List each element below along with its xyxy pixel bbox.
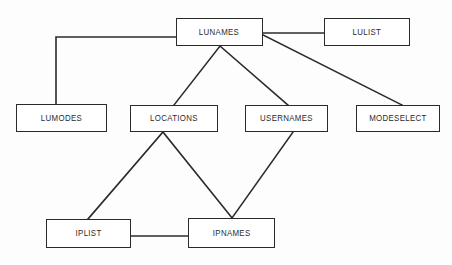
diagram-canvas: LUNAMES LULIST LUMODES LOCATIONS USERNAM… (0, 0, 452, 265)
node-lulist[interactable]: LULIST (324, 18, 410, 46)
node-iplist[interactable]: IPLIST (46, 219, 131, 248)
node-modeselect[interactable]: MODESELECT (356, 105, 440, 132)
edge-locations-to-iplist (88, 132, 163, 219)
edge-lunames-to-lumodes (56, 37, 176, 104)
edge-usernames-to-ipnames (232, 132, 293, 218)
edge-lunames-to-usernames (220, 46, 288, 105)
node-label: IPNAMES (213, 229, 251, 238)
node-ipnames[interactable]: IPNAMES (188, 218, 275, 248)
edge-locations-to-ipnames (163, 132, 232, 218)
node-lunames[interactable]: LUNAMES (176, 18, 263, 46)
node-lumodes[interactable]: LUMODES (16, 104, 107, 132)
node-label: IPLIST (75, 229, 101, 238)
node-label: MODESELECT (369, 114, 427, 123)
node-label: LOCATIONS (150, 114, 198, 123)
node-label: LUMODES (41, 114, 82, 123)
node-locations[interactable]: LOCATIONS (130, 105, 218, 132)
node-label: LUNAMES (199, 28, 239, 37)
node-usernames[interactable]: USERNAMES (245, 105, 328, 132)
node-label: LULIST (353, 28, 382, 37)
node-label: USERNAMES (260, 114, 313, 123)
edge-lunames-to-locations (174, 46, 220, 105)
